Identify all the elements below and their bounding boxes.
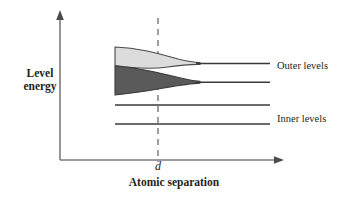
y-axis-label-line1: Level xyxy=(27,67,54,79)
outer-levels-annotation: Outer levels xyxy=(277,60,328,72)
outer-band-upper-light xyxy=(115,47,200,68)
y-axis-label: Level energy xyxy=(14,67,66,93)
separation-tick-label-d: d xyxy=(138,160,178,174)
x-axis-label: Atomic separation xyxy=(104,176,244,189)
inner-levels-annotation: Inner levels xyxy=(277,113,326,125)
outer-band-lower-dark xyxy=(115,66,200,95)
energy-band-diagram: Level energy d Atomic separation Outer l… xyxy=(0,0,348,199)
y-axis-label-line2: energy xyxy=(14,80,66,93)
